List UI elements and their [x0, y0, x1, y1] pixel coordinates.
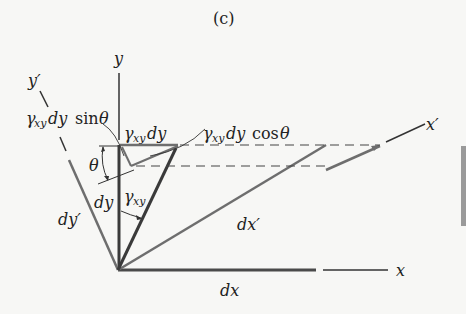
- dy-label: dy: [94, 193, 114, 212]
- theta-arrow-top: [101, 146, 105, 152]
- svg-text:sin: sin: [75, 109, 99, 128]
- panel-label: (c): [213, 9, 234, 28]
- dx-prime-label: dx′: [237, 215, 260, 234]
- shear-sin-annotation: γ xy dy sin θ: [26, 109, 109, 130]
- sin-leader-line: [103, 124, 124, 156]
- svg-text:dy: dy: [147, 124, 167, 143]
- x-prime-ext: [326, 146, 380, 170]
- side-bar: [461, 146, 466, 226]
- svg-text:cos: cos: [252, 124, 279, 143]
- svg-text:θ: θ: [99, 109, 109, 128]
- x-prime-axis-line: [320, 147, 378, 148]
- dy-prime-label: dy′: [58, 210, 81, 229]
- y-prime-axis-upper: [40, 91, 48, 107]
- svg-text:dy: dy: [48, 109, 68, 128]
- gamma-xy-label: γ xy: [124, 187, 146, 208]
- svg-text:xy: xy: [34, 117, 47, 130]
- theta-arc: [102, 147, 108, 180]
- svg-text:xy: xy: [212, 132, 225, 145]
- dx-label: dx: [220, 281, 239, 300]
- shear-strain-diagram: (c) y x dx x′ dx′ y′ dy′ dy γ xy: [0, 0, 466, 314]
- svg-text:dy: dy: [226, 124, 246, 143]
- theta-label: θ: [89, 156, 99, 175]
- x-prime-axis: [386, 124, 425, 142]
- shear-cos-annotation: γ xy dy cos θ: [203, 124, 290, 145]
- x-prime-axis-thin: [327, 125, 393, 143]
- x-axis-label: x: [396, 261, 405, 280]
- theta-ref-line: [98, 170, 134, 184]
- sin-component-line: [122, 147, 131, 166]
- y-prime-label: y′: [27, 71, 41, 90]
- shear-displacement-annotation: γ xy dy: [124, 124, 167, 145]
- y-prime-axis-lower: [60, 137, 66, 151]
- svg-text:θ: θ: [280, 124, 290, 143]
- svg-text:xy: xy: [133, 132, 146, 145]
- y-axis-label: y: [113, 49, 124, 68]
- svg-text:xy: xy: [133, 195, 146, 208]
- x-prime-label: x′: [426, 115, 439, 134]
